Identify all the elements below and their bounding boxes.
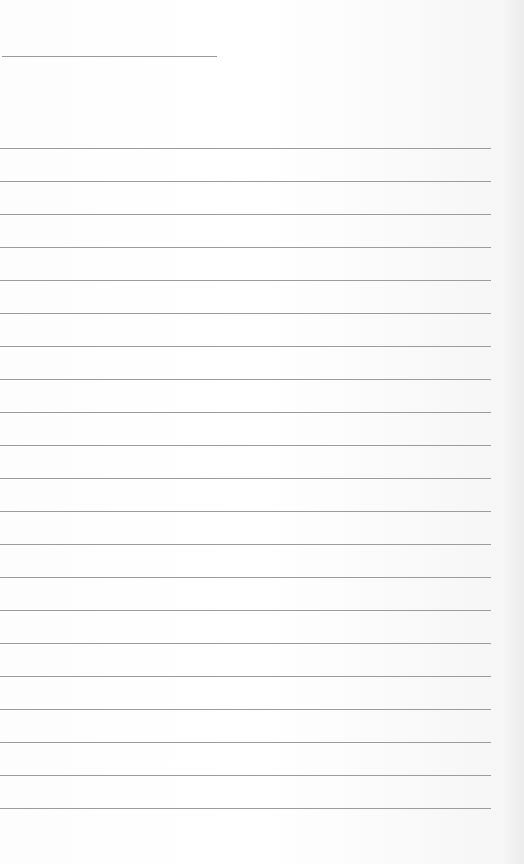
ruled-line [0,247,491,248]
ruled-line [0,214,491,215]
ruled-line [0,280,491,281]
ruled-line [0,742,491,743]
ruled-line [0,577,491,578]
ruled-lines-area [0,0,524,864]
ruled-line [0,346,491,347]
ruled-line [0,676,491,677]
ruled-line [0,709,491,710]
ruled-line [0,313,491,314]
ruled-line [0,511,491,512]
ruled-line [0,610,491,611]
ruled-line [0,181,491,182]
ruled-line [0,412,491,413]
notepad-page [0,0,524,864]
ruled-line [0,445,491,446]
ruled-line [0,643,491,644]
ruled-line [0,478,491,479]
ruled-line [0,544,491,545]
ruled-line [0,775,491,776]
ruled-line [0,148,491,149]
ruled-line [0,379,491,380]
ruled-line [0,808,491,809]
